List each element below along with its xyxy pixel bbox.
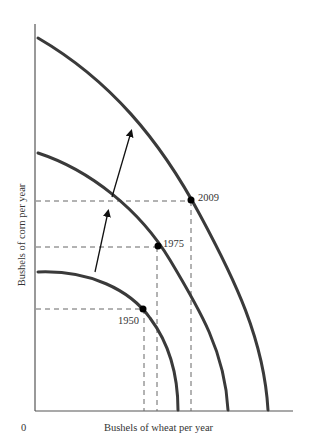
- y-axis-label: Bushels of corn per year: [16, 183, 27, 286]
- origin-label: 0: [21, 422, 26, 433]
- ppf-diagram: 1950 1975 2009 0 Bushels of wheat per ye…: [0, 0, 316, 441]
- label-1950: 1950: [118, 315, 139, 326]
- x-axis-label: Bushels of wheat per year: [104, 422, 214, 433]
- point-2009: [188, 197, 195, 204]
- dashed-guides: [36, 201, 191, 411]
- point-1950: [140, 306, 147, 313]
- shift-arrow-1975-2009: [112, 132, 131, 197]
- label-1975: 1975: [163, 238, 184, 249]
- ppf-curve-2009: [38, 38, 268, 410]
- shift-arrow-1950-1975: [95, 212, 108, 272]
- label-2009: 2009: [198, 192, 219, 203]
- point-1975: [155, 243, 162, 250]
